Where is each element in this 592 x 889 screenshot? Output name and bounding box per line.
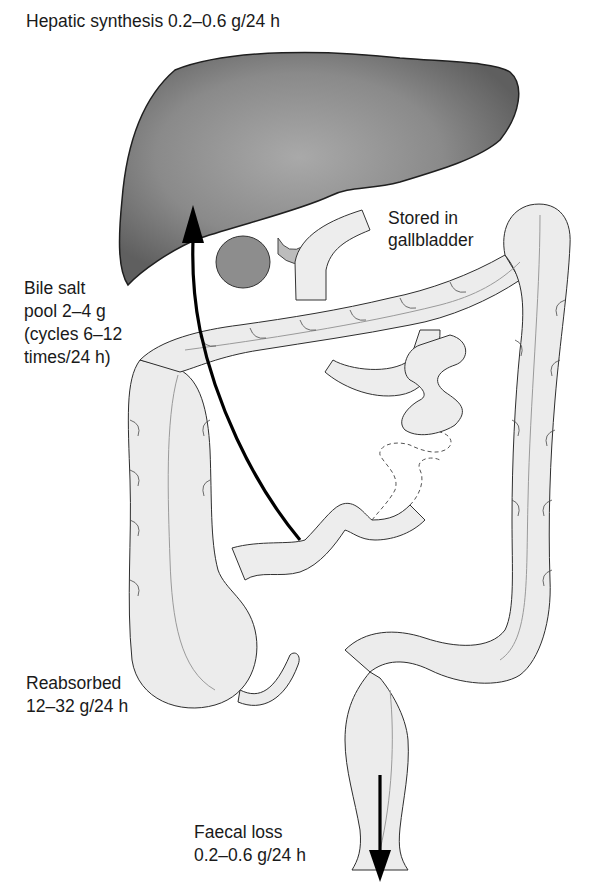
stored-gallbladder-label-line1: Stored in xyxy=(388,207,458,229)
bile-salt-pool-label-line4: times/24 h) xyxy=(24,346,111,368)
faecal-loss-label-line2: 0.2–0.6 g/24 h xyxy=(194,844,306,866)
anatomy-illustration xyxy=(0,0,592,889)
reabsorbed-label-line1: Reabsorbed xyxy=(26,672,121,694)
small-intestine-dashed xyxy=(410,458,440,505)
faecal-loss-label-line1: Faecal loss xyxy=(194,821,283,843)
bile-salt-pool-label-line1: Bile salt xyxy=(24,277,85,299)
bile-salt-pool-label-line3: (cycles 6–12 xyxy=(24,323,122,345)
bile-salt-pool-label-line2: pool 2–4 g xyxy=(24,300,106,322)
hepatic-synthesis-label: Hepatic synthesis 0.2–0.6 g/24 h xyxy=(26,10,280,32)
diagram-canvas: Hepatic synthesis 0.2–0.6 g/24 h Stored … xyxy=(0,0,592,889)
reabsorbed-label-line2: 12–32 g/24 h xyxy=(26,695,128,717)
stored-gallbladder-label-line2: gallbladder xyxy=(388,229,474,251)
